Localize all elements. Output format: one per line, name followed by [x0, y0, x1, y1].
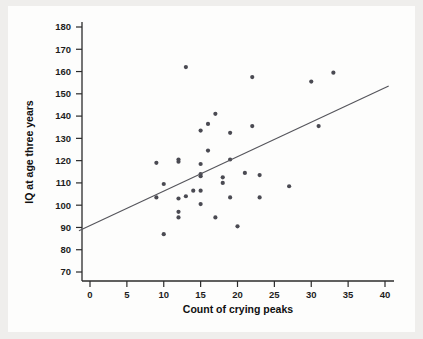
- data-point: [206, 122, 210, 126]
- y-tick-label: 80: [60, 244, 71, 255]
- data-point: [258, 173, 262, 177]
- x-tick-label: 30: [306, 289, 317, 300]
- data-point: [184, 194, 188, 198]
- scatter-chart: 0510152025303540708090100110120130140150…: [0, 0, 423, 339]
- data-point: [199, 162, 203, 166]
- x-tick-label: 20: [232, 289, 243, 300]
- x-tick-label: 40: [380, 289, 391, 300]
- data-points: [154, 65, 335, 236]
- trend-line-group: [79, 86, 389, 231]
- data-point: [176, 215, 180, 219]
- y-tick-label: 130: [55, 133, 71, 144]
- data-point: [213, 112, 217, 116]
- data-point: [199, 202, 203, 206]
- data-point: [154, 161, 158, 165]
- data-point: [258, 195, 262, 199]
- data-point: [199, 128, 203, 132]
- x-tick-label: 0: [87, 289, 92, 300]
- data-point: [221, 175, 225, 179]
- y-tick-label: 150: [55, 88, 71, 99]
- data-point: [228, 195, 232, 199]
- data-point: [221, 181, 225, 185]
- data-point: [176, 157, 180, 161]
- x-tick-label: 5: [124, 289, 130, 300]
- y-tick-label: 100: [55, 200, 71, 211]
- data-point: [243, 171, 247, 175]
- data-point: [176, 196, 180, 200]
- data-point: [309, 79, 313, 83]
- y-tick-label: 90: [60, 222, 71, 233]
- data-point: [162, 182, 166, 186]
- data-point: [317, 124, 321, 128]
- data-point: [176, 210, 180, 214]
- axis-lines: [82, 22, 394, 281]
- axis-ticks: [76, 27, 385, 287]
- data-point: [184, 65, 188, 69]
- data-point: [162, 232, 166, 236]
- y-tick-label: 140: [55, 110, 71, 121]
- data-point: [228, 131, 232, 135]
- data-point: [331, 71, 335, 75]
- data-point: [250, 75, 254, 79]
- x-tick-label: 10: [158, 289, 169, 300]
- y-tick-label: 110: [56, 177, 71, 188]
- data-point: [199, 189, 203, 193]
- x-tick-label: 25: [269, 289, 280, 300]
- y-tick-label: 170: [55, 44, 71, 55]
- data-point: [206, 149, 210, 153]
- x-tick-label: 35: [343, 289, 354, 300]
- tick-labels: 0510152025303540708090100110120130140150…: [55, 21, 390, 300]
- data-point: [250, 124, 254, 128]
- data-point: [191, 189, 195, 193]
- data-point: [287, 184, 291, 188]
- y-tick-label: 120: [55, 155, 71, 166]
- data-point: [235, 224, 239, 228]
- figure-container: 0510152025303540708090100110120130140150…: [0, 0, 423, 339]
- y-tick-label: 180: [55, 21, 71, 32]
- x-tick-label: 15: [195, 289, 206, 300]
- y-tick-label: 70: [60, 266, 71, 277]
- data-point: [213, 215, 217, 219]
- regression-line: [79, 86, 389, 231]
- y-tick-label: 160: [55, 66, 71, 77]
- y-axis-title: IQ at age three years: [23, 100, 35, 203]
- x-axis-title: Count of crying peaks: [183, 303, 293, 315]
